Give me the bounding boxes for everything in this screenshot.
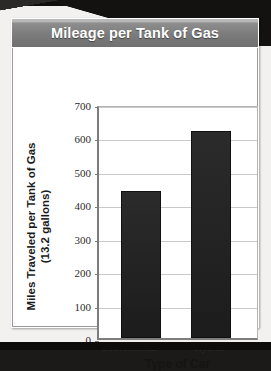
bar — [191, 131, 231, 338]
chart-card: Mileage per Tank of Gas Miles Traveled p… — [11, 18, 259, 328]
plot-area — [97, 106, 258, 340]
scan-bottom-strip — [0, 342, 271, 350]
y-tick-label: 400 — [63, 200, 91, 212]
y-tick-label: 200 — [63, 267, 91, 279]
y-tick-label: 500 — [63, 167, 91, 179]
chart-title-banner: Mileage per Tank of Gas — [12, 19, 258, 47]
y-axis-tick-labels: 0100200300400500600700 — [63, 106, 91, 340]
y-axis-title-line2: (13.2 gallons) — [39, 142, 53, 310]
y-tick-mark — [95, 107, 99, 108]
y-tick-label: 300 — [63, 234, 91, 246]
gridline — [99, 174, 257, 175]
y-tick-label: 600 — [63, 133, 91, 145]
chart-frame: Miles Traveled per Tank of Gas (13.2 gal… — [12, 48, 258, 327]
gridline — [99, 107, 257, 108]
y-tick-mark — [95, 174, 99, 175]
y-tick-label: 700 — [63, 100, 91, 112]
y-axis-title-line1: Miles Traveled per Tank of Gas — [26, 142, 40, 310]
y-axis-title: Miles Traveled per Tank of Gas (13.2 gal… — [27, 110, 51, 342]
y-tick-mark — [95, 140, 99, 141]
chart-title: Mileage per Tank of Gas — [51, 25, 219, 41]
gridline — [99, 140, 257, 141]
y-tick-mark — [95, 207, 99, 208]
plot-wrapper: 0100200300400500600700 Conventional Hybr… — [63, 106, 259, 350]
y-tick-mark — [95, 308, 99, 309]
bar — [121, 191, 161, 338]
y-tick-mark — [95, 274, 99, 275]
x-axis-title: Type of Car — [97, 357, 258, 371]
y-tick-mark — [95, 241, 99, 242]
y-tick-label: 100 — [63, 301, 91, 313]
